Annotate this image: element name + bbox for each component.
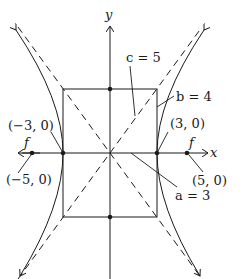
- bottom-co-vertex-point: [108, 215, 113, 220]
- x-axis-label: x: [210, 145, 218, 160]
- y-axis-label: y: [104, 7, 113, 22]
- c-leader: [130, 66, 135, 116]
- a-leader: [131, 153, 177, 187]
- a-label: a = 3: [175, 188, 210, 203]
- left-vertex-label: (−3, 0): [8, 118, 54, 133]
- left-focus-leader: [18, 155, 31, 173]
- b-label: b = 4: [176, 89, 212, 104]
- right-focus-point: [185, 151, 190, 156]
- right-focus-leader: [189, 155, 203, 172]
- top-co-vertex-point: [108, 87, 113, 92]
- left-focus-label: (−5, 0): [6, 172, 52, 187]
- right-focus-label: (5, 0): [192, 173, 227, 188]
- left-vertex-leader: [51, 132, 62, 151]
- right-vertex-label: (3, 0): [170, 116, 205, 131]
- left-focus-marker: f: [23, 135, 31, 150]
- right-focus-marker: f: [188, 135, 196, 150]
- left-focus-point: [30, 151, 35, 156]
- axes: [18, 26, 208, 279]
- right-vertex-point: [155, 151, 160, 156]
- hyperbola-diagram: y x c = 5 b = 4 a = 3 (−3, 0) (3, 0) (−5…: [0, 0, 244, 279]
- c-label: c = 5: [126, 50, 161, 65]
- left-vertex-point: [61, 151, 66, 156]
- right-vertex-leader: [158, 132, 168, 151]
